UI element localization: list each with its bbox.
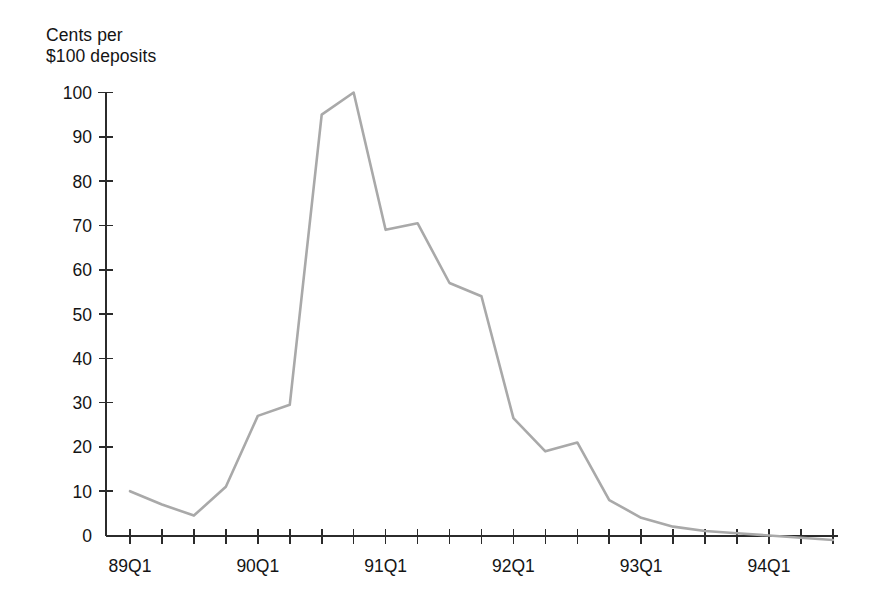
- x-axis-group: 89Q190Q191Q192Q193Q194Q1: [106, 529, 838, 576]
- y-tick-label: 60: [73, 260, 93, 280]
- y-tick-label: 0: [82, 526, 92, 546]
- x-tick-label-group: 89Q190Q191Q192Q193Q194Q1: [109, 556, 791, 576]
- x-tick-label: 92Q1: [492, 556, 535, 576]
- y-tick-label: 90: [73, 127, 93, 147]
- y-tick-label-group: 0102030405060708090100: [63, 83, 92, 546]
- y-tick-label: 40: [73, 349, 93, 369]
- y-tick-label: 100: [63, 83, 92, 103]
- data-series-group: [130, 93, 833, 540]
- x-tick-label: 93Q1: [620, 556, 663, 576]
- y-axis-group: 0102030405060708090100: [63, 83, 113, 546]
- chart-container: Cents per $100 deposits 0102030405060708…: [0, 0, 875, 603]
- x-tick-label: 94Q1: [748, 556, 791, 576]
- x-tick-label: 90Q1: [236, 556, 279, 576]
- x-tick-label: 91Q1: [364, 556, 407, 576]
- y-tick-label: 10: [73, 482, 93, 502]
- chart-plot-area: 0102030405060708090100 89Q190Q191Q192Q19…: [0, 0, 875, 603]
- y-tick-label: 50: [73, 305, 93, 325]
- y-tick-label: 80: [73, 172, 93, 192]
- y-tick-label: 70: [73, 216, 93, 236]
- data-line-series-0: [130, 93, 833, 540]
- y-tick-label: 30: [73, 393, 93, 413]
- x-tick-label: 89Q1: [109, 556, 152, 576]
- y-tick-label: 20: [73, 437, 93, 457]
